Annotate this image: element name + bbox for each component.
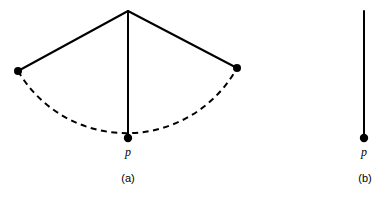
panel-b: p (b)	[358, 11, 371, 184]
panel-a-right-radius	[128, 11, 237, 68]
panel-b-caption: (b)	[358, 172, 371, 184]
panel-a-point-p	[124, 134, 132, 142]
panel-a-right-vertex	[233, 64, 241, 72]
panel-a: p (a)	[14, 11, 241, 184]
panel-a-left-vertex	[14, 67, 22, 75]
figure-canvas: p (a) p (b)	[0, 0, 386, 199]
panel-a-caption: (a)	[121, 172, 134, 184]
panel-a-point-p-label: p	[124, 145, 131, 159]
panel-b-point-p	[360, 134, 368, 142]
figure-container: p (a) p (b)	[0, 0, 386, 199]
panel-b-point-p-label: p	[360, 145, 367, 159]
panel-a-left-radius	[18, 11, 128, 71]
